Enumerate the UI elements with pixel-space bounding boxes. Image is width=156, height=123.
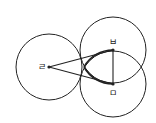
segment-left-top: [49, 50, 113, 67]
geometry-diagram: ㄹ ㅂ ㅁ: [0, 0, 156, 123]
label-point-top: ㅂ: [109, 37, 117, 47]
arc-lens-lower: [84, 67, 113, 84]
point-top-dot: [111, 48, 114, 51]
segment-left-bottom: [49, 67, 113, 84]
point-left-dot: [47, 65, 50, 68]
diagram-svg: ㄹ ㅂ ㅁ: [0, 0, 156, 123]
label-point-bottom: ㅁ: [109, 88, 117, 98]
point-bottom-dot: [111, 82, 114, 85]
label-point-left: ㄹ: [38, 62, 46, 72]
arc-lens-upper: [84, 50, 113, 67]
